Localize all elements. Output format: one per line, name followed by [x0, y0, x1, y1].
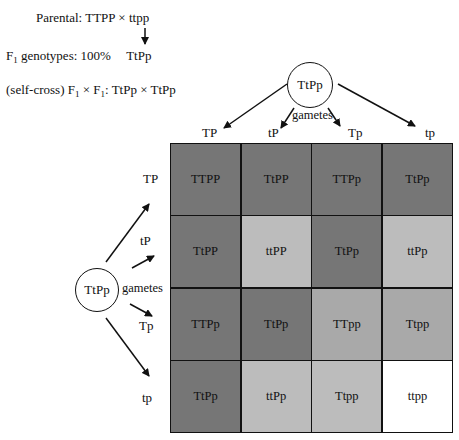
- top-gamete-tP: tP: [268, 125, 279, 141]
- top-parent-circle: TtPp: [287, 62, 333, 108]
- punnett-square: TTPPTtPPTTPpTtPpTtPPttPPTtPpttPpTTPpTtPp…: [170, 143, 453, 433]
- top-gametes-label: gametes: [292, 108, 333, 123]
- top-arrow-tp-icon: [338, 84, 415, 126]
- top-arrow-TP-icon: [224, 84, 287, 128]
- punnett-cell: Ttpp: [312, 361, 381, 432]
- punnett-cell: ttPP: [242, 216, 311, 287]
- top-gamete-tp: tp: [425, 125, 435, 141]
- punnett-cell: TtPP: [171, 216, 240, 287]
- punnett-cell: TtPp: [171, 361, 240, 432]
- top-gamete-TP: TP: [202, 125, 217, 141]
- left-arrow-Tp-icon: [130, 304, 152, 316]
- left-gamete-tp: tp: [142, 390, 152, 406]
- top-parent-genotype: TtPp: [297, 77, 322, 93]
- punnett-cell: TtPp: [312, 216, 381, 287]
- punnett-cell: ttPp: [383, 216, 452, 287]
- left-gamete-tP: tP: [140, 233, 151, 249]
- left-gametes-label: gametes: [122, 281, 163, 296]
- left-parent-genotype: TtPp: [84, 282, 109, 298]
- left-arrow-tP-icon: [132, 256, 154, 268]
- punnett-cell: TtPP: [242, 144, 311, 215]
- punnett-cell: ttpp: [383, 361, 452, 432]
- punnett-cell: TtPp: [383, 144, 452, 215]
- punnett-cell: TTPP: [171, 144, 240, 215]
- left-parent-circle: TtPp: [75, 268, 119, 312]
- punnett-cell: TTPp: [312, 144, 381, 215]
- punnett-cell: TTPp: [171, 289, 240, 360]
- punnett-cell: ttPp: [242, 361, 311, 432]
- top-gamete-Tp: Tp: [348, 125, 362, 141]
- left-gamete-Tp: Tp: [139, 318, 153, 334]
- punnett-cell: Ttpp: [383, 289, 452, 360]
- punnett-cell: TtPp: [242, 289, 311, 360]
- punnett-cell: TTpp: [312, 289, 381, 360]
- left-gamete-TP: TP: [143, 171, 158, 187]
